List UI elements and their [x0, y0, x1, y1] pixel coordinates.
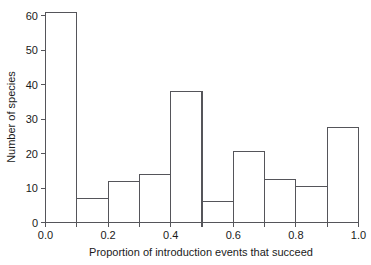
histogram-figure: 0.00.20.40.60.81.0 0102030405060 Proport… — [0, 0, 371, 265]
histogram-bar — [233, 152, 264, 223]
bars-group — [46, 13, 359, 223]
histogram-bar — [265, 179, 296, 222]
x-tick-label: 0.0 — [38, 229, 53, 241]
y-axis-title: Number of species — [5, 71, 17, 163]
x-tick-label: 0.2 — [100, 229, 115, 241]
x-axis-ticks: 0.00.20.40.60.81.0 — [38, 223, 366, 241]
y-axis-ticks: 0102030405060 — [26, 10, 46, 229]
x-tick-label: 1.0 — [351, 229, 366, 241]
y-tick-label: 10 — [26, 182, 38, 194]
y-tick-label: 60 — [26, 10, 38, 22]
y-tick-label: 50 — [26, 44, 38, 56]
x-axis-title: Proportion of introduction events that s… — [89, 246, 313, 258]
x-tick-label: 0.6 — [226, 229, 241, 241]
chart-canvas: 0.00.20.40.60.81.0 0102030405060 Proport… — [0, 0, 371, 265]
histogram-bar — [139, 174, 170, 222]
histogram-bar — [327, 128, 358, 223]
histogram-bar — [77, 198, 108, 222]
histogram-bar — [46, 13, 77, 223]
y-tick-label: 20 — [26, 148, 38, 160]
histogram-bar — [171, 92, 202, 223]
y-tick-label: 0 — [32, 217, 38, 229]
y-tick-label: 30 — [26, 113, 38, 125]
y-tick-label: 40 — [26, 79, 38, 91]
histogram-bar — [296, 186, 327, 222]
histogram-bar — [108, 181, 139, 222]
x-tick-label: 0.4 — [163, 229, 178, 241]
x-tick-label: 0.8 — [288, 229, 303, 241]
histogram-bar — [202, 202, 233, 223]
